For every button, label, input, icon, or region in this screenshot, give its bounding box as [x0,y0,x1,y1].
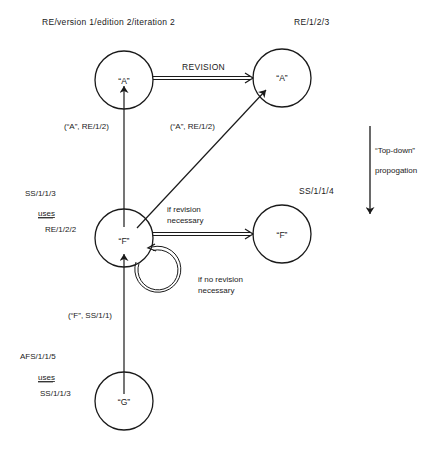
node-f1-label: “F” [119,236,130,246]
annotation-g-block: AFS/1/1/5 uses SS/1/1/3 [20,352,71,398]
annotation-g-afs: AFS/1/1/5 [20,352,56,361]
node-f2: “F” [253,205,311,263]
propagation-label-2: propogation [375,166,417,175]
edge-if-no-revision-line1: if no revision [198,275,243,284]
edge-f-to-a2: (“A”, RE/1/2) [137,90,266,228]
diagram-svg: RE/version 1/edition 2/iteration 2 RE/1/… [0,0,444,454]
propagation-label-1: “Top-down” [375,146,415,155]
annotation-g-uses: uses [38,373,55,382]
heading-ss-1-1-4: SS/1/1/4 [299,186,334,196]
diagram-canvas: RE/version 1/edition 2/iteration 2 RE/1/… [0,0,444,454]
propagation-arrow: “Top-down” propogation [370,126,417,214]
annotation-f-uses: uses [38,209,55,218]
edge-g-to-f-label: (“F”, SS/1/1) [68,311,112,320]
arrowhead-icon [245,73,253,83]
node-f2-label: “F” [277,230,288,240]
edge-revision: REVISION [153,62,253,83]
edge-self-loop: if no revision necessary [135,244,243,295]
heading-re-version: RE/version 1/edition 2/iteration 2 [42,17,175,27]
edge-if-revision-line1: if revision [167,205,201,214]
node-a2-label: “A” [276,73,288,83]
heading-re-1-2-3: RE/1/2/3 [294,17,329,27]
edge-if-no-revision-line2: necessary [198,286,234,295]
edge-f-to-a1-label: (“A”, RE/1/2) [64,122,109,131]
annotation-f-ss: SS/1/1/3 [25,189,56,198]
node-g-label: “G” [118,397,130,407]
edge-f1-to-f2: if revision necessary [153,205,253,239]
edge-revision-label: REVISION [182,62,225,72]
annotation-f-block: SS/1/1/3 uses RE/1/2/2 [25,189,77,234]
arrowhead-icon [245,229,253,239]
edge-f-to-a2-label: (“A”, RE/1/2) [170,122,215,131]
annotation-g-ss: SS/1/1/3 [40,389,71,398]
node-a1-label: “A” [118,76,130,86]
node-a2: “A” [253,49,311,107]
annotation-f-re: RE/1/2/2 [45,225,77,234]
edge-if-revision-line2: necessary [167,216,203,225]
